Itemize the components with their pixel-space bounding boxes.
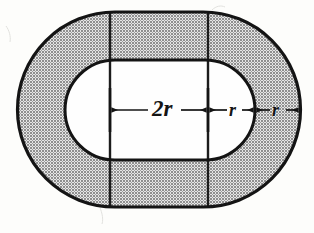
dimension-label-r-inner-gap: r: [229, 101, 236, 119]
dimension-label-2r: 2r: [152, 97, 172, 120]
figure-container: 2r r r: [0, 0, 314, 233]
dimension-label-r-outer-gap: r: [272, 101, 279, 119]
